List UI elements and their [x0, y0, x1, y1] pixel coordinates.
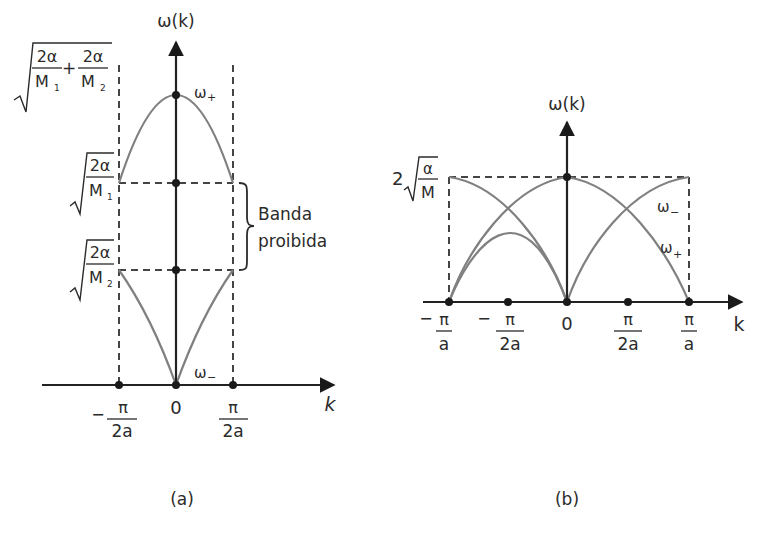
upper-band-dot — [172, 179, 180, 187]
panel-b: ω(k) k 0 − π a − π 2a π 2a π a 2 — [392, 94, 745, 509]
svg-text:+: + — [62, 58, 76, 78]
tick-neg-pi-2a: − π 2a — [91, 398, 137, 441]
origin-dot — [172, 381, 180, 389]
origin-label: 0 — [170, 397, 181, 418]
svg-text:M: M — [89, 268, 103, 287]
svg-text:1: 1 — [107, 192, 113, 202]
svg-text:1: 1 — [54, 83, 60, 93]
tick-neg-pi-a: − π a — [419, 309, 452, 354]
dispersion-figure: ω(k) k 0 − π 2a π 2a 2α M 1 + 2α M 2 — [0, 0, 759, 533]
svg-text:2α: 2α — [90, 156, 111, 175]
panel-a: ω(k) k 0 − π 2a π 2a 2α M 1 + 2α M 2 — [14, 11, 336, 509]
tick-pos-pi-2a: π 2a — [219, 398, 248, 441]
svg-text:π: π — [684, 310, 694, 329]
svg-text:α: α — [423, 160, 433, 178]
tick-dot-neg-pi-2a — [504, 298, 512, 306]
svg-text:−: − — [419, 309, 432, 328]
acoustic-branch-left-b — [449, 233, 567, 302]
acoustic-branch-left-curve-b — [449, 177, 567, 302]
svg-text:+: + — [207, 91, 216, 104]
lower-band-dot — [172, 266, 180, 274]
pos-zone-edge-dot — [229, 381, 237, 389]
origin-dot-b — [563, 298, 571, 306]
neg-zone-edge-dot — [115, 381, 123, 389]
svg-text:+: + — [673, 248, 682, 261]
tick-pos-pi-2a-b: π 2a — [614, 310, 642, 354]
label-omega-plus-b: ω + — [660, 239, 682, 261]
svg-text:2a: 2a — [617, 334, 638, 354]
origin-label-b: 0 — [561, 313, 572, 334]
label-omega-minus-b: ω − — [657, 198, 679, 219]
svg-text:2: 2 — [392, 168, 403, 189]
label-lower-band-edge: 2α M 2 — [70, 240, 114, 300]
band-gap-brace — [239, 183, 254, 270]
svg-text:2: 2 — [107, 279, 113, 289]
omega-max-dot — [172, 91, 180, 99]
tick-neg-pi-2a-b: − π 2a — [477, 309, 524, 354]
svg-text:M: M — [81, 72, 95, 91]
caption-a: (a) — [170, 489, 194, 509]
svg-text:2α: 2α — [37, 47, 58, 66]
k-axis-label: k — [324, 393, 336, 415]
caption-b: (b) — [555, 489, 579, 509]
max-dot-b — [563, 173, 571, 181]
svg-text:2a: 2a — [499, 334, 520, 354]
tick-dot-pos-pi-2a — [624, 298, 632, 306]
omega-axis-label: ω(k) — [157, 11, 194, 31]
label-omega-plus-a: ω + — [194, 84, 216, 104]
svg-text:2a: 2a — [111, 421, 132, 441]
svg-text:−: − — [477, 309, 490, 328]
svg-text:a: a — [439, 334, 449, 354]
svg-text:ω: ω — [660, 239, 673, 257]
k-axis-label-b: k — [733, 313, 744, 335]
svg-text:2α: 2α — [83, 47, 104, 66]
label-omega-minus-a: ω − — [194, 364, 216, 384]
svg-text:π: π — [228, 398, 238, 417]
svg-text:M: M — [421, 183, 435, 202]
svg-text:π: π — [505, 310, 515, 329]
svg-text:π: π — [439, 310, 449, 329]
svg-text:ω: ω — [194, 364, 207, 382]
svg-text:ω: ω — [657, 198, 670, 216]
omega-axis-label-b: ω(k) — [548, 94, 585, 114]
optical-branch-left-b — [449, 177, 567, 302]
svg-text:2a: 2a — [222, 421, 243, 441]
svg-text:−: − — [670, 206, 679, 219]
svg-text:2: 2 — [100, 83, 106, 93]
band-gap-label-line1: Banda — [258, 204, 312, 224]
label-max-frequency-b: 2 α M — [392, 157, 438, 202]
svg-text:ω: ω — [194, 84, 207, 102]
svg-text:π: π — [118, 398, 128, 417]
tick-pos-pi-a: π a — [681, 310, 697, 354]
svg-text:−: − — [207, 371, 216, 384]
label-omega-max: 2α M 1 + 2α M 2 — [14, 43, 112, 112]
svg-text:π: π — [623, 310, 633, 329]
tick-dot-pos-pi-a — [685, 298, 693, 306]
tick-dot-neg-pi-a — [445, 298, 453, 306]
svg-text:−: − — [91, 405, 104, 424]
svg-text:M: M — [89, 181, 103, 200]
svg-text:2α: 2α — [90, 243, 111, 262]
svg-text:a: a — [684, 334, 694, 354]
label-upper-band-edge: 2α M 1 — [70, 153, 114, 214]
band-gap-label-line2: proibida — [258, 231, 327, 251]
svg-text:M: M — [35, 72, 49, 91]
